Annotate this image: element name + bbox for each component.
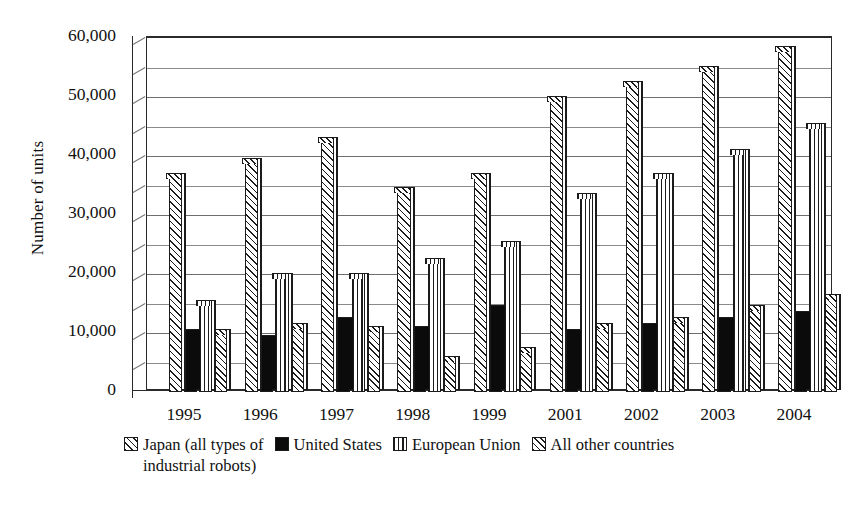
x-axis-tick-label: 2003 (680, 404, 756, 425)
wall-tick (133, 214, 146, 222)
bar-side-face (288, 273, 293, 390)
legend-label: All other countries (551, 434, 675, 455)
wall-tick (133, 67, 146, 75)
bar-group (771, 38, 847, 392)
legend-item: Japan (all types of (124, 434, 264, 455)
bar-side-face (226, 329, 231, 390)
bar-japan (702, 70, 715, 392)
bar-group (695, 38, 771, 392)
wall-tick (133, 126, 146, 134)
bar-side-face (730, 317, 735, 390)
y-axis-tick-label: 30,000 (38, 204, 116, 222)
bar-side-face (379, 326, 384, 390)
x-axis-tick-label: 1995 (146, 404, 222, 425)
bar-side-face (333, 137, 338, 390)
bar-side-face (410, 187, 415, 390)
diagonal-hatch-swatch (124, 437, 138, 451)
bar-side-face (669, 173, 674, 390)
legend-item: United States (275, 434, 382, 455)
wall-tick (133, 37, 146, 45)
legend-label: Japan (all types of (143, 434, 264, 455)
bar-side-face (608, 323, 613, 390)
bar-side-face (349, 317, 354, 390)
y-axis-tick-label: 60,000 (38, 27, 116, 45)
bar-side-face (791, 46, 796, 390)
bar-group (466, 38, 542, 392)
bar-side-face (684, 317, 689, 390)
legend-label: United States (294, 434, 382, 455)
bar-chart: Number of units 010,00020,00030,00040,00… (0, 0, 861, 506)
x-axis-tick-label: 1998 (375, 404, 451, 425)
y-axis-tick-labels: 010,00020,00030,00040,00050,00060,000 (0, 0, 120, 460)
bar-side-face (821, 123, 826, 391)
x-axis-tick-label: 1997 (298, 404, 374, 425)
bar-side-face (836, 294, 841, 390)
y-axis-tick-label: 40,000 (38, 145, 116, 163)
bar-japan (245, 162, 258, 392)
bar-group (618, 38, 694, 392)
x-axis-tick-label: 2002 (603, 404, 679, 425)
legend-item: European Union (393, 434, 521, 455)
bar-groups (161, 38, 847, 392)
wall-tick (133, 244, 146, 252)
bar-side-face (592, 193, 597, 390)
x-axis-tick-label: 2001 (527, 404, 603, 425)
bar-side-face (562, 96, 567, 390)
x-axis-tick-label: 1996 (222, 404, 298, 425)
bar-japan (550, 100, 563, 392)
wall-tick (133, 332, 146, 340)
bar-side-face (211, 300, 216, 391)
bar-side-face (486, 173, 491, 390)
y-axis-tick-label: 50,000 (38, 86, 116, 104)
bar-side-face (638, 81, 643, 390)
bar-group (313, 38, 389, 392)
bar-group (390, 38, 466, 392)
bar-side-face (531, 347, 536, 390)
wall-tick (133, 273, 146, 281)
y-axis-tick-label: 20,000 (38, 263, 116, 281)
bar-side-face (257, 158, 262, 390)
bar-side-face (745, 149, 750, 390)
bar-japan (626, 85, 639, 392)
bar-japan (321, 141, 334, 392)
x-axis-tick-label: 1999 (451, 404, 527, 425)
plot-frame (146, 36, 832, 390)
bar-side-face (577, 329, 582, 390)
bar-japan (169, 177, 182, 392)
crosshatch-swatch (532, 437, 546, 451)
wall-tick (133, 96, 146, 104)
bar-side-face (653, 323, 658, 390)
bar-side-face (806, 311, 811, 390)
solid-black-swatch (275, 437, 289, 451)
legend-row-1: Japan (all types ofUnited StatesEuropean… (124, 434, 844, 455)
bar-side-face (196, 329, 201, 390)
bar-japan (778, 50, 791, 392)
bar-group (542, 38, 618, 392)
wall-tick (133, 155, 146, 163)
vertical-lines-swatch (393, 437, 407, 451)
plot-area (132, 36, 832, 398)
bar-side-face (516, 241, 521, 391)
x-axis-tick-labels: 199519961997199819992001200220032004 (146, 404, 832, 430)
legend-item: All other countries (532, 434, 675, 455)
chart-left-wall (132, 36, 146, 398)
bar-side-face (455, 356, 460, 390)
bar-side-face (501, 305, 506, 390)
bar-group (237, 38, 313, 392)
bar-group (161, 38, 237, 392)
bar-side-face (364, 273, 369, 390)
y-axis-tick-label: 0 (38, 381, 116, 399)
bar-side-face (714, 66, 719, 390)
chart-legend: Japan (all types ofUnited StatesEuropean… (124, 434, 844, 476)
bar-side-face (272, 335, 277, 390)
bar-side-face (303, 323, 308, 390)
legend-continuation: industrial robots) (143, 455, 844, 476)
bar-side-face (425, 326, 430, 390)
wall-tick (133, 303, 146, 311)
wall-tick (133, 362, 146, 370)
bar-japan (474, 177, 487, 392)
legend-label: European Union (412, 434, 521, 455)
bar-side-face (440, 258, 445, 390)
bar-side-face (181, 173, 186, 390)
bar-side-face (760, 305, 765, 390)
